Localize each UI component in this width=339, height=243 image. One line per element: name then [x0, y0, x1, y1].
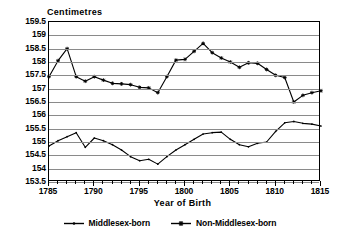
data-point-marker: [84, 146, 86, 148]
legend-item[interactable]: Middlesex-born: [63, 218, 150, 228]
gridline: [49, 142, 319, 143]
data-point-marker: [265, 68, 269, 72]
data-point-marker: [238, 65, 242, 69]
legend-item-label: Middlesex-born: [89, 218, 150, 228]
x-axis-tick-label: 1815: [311, 186, 330, 196]
x-axis-tick: [266, 181, 267, 184]
x-axis-tick: [130, 181, 131, 184]
legend-item[interactable]: Non-Middlesex-born: [170, 218, 276, 228]
data-point-marker: [48, 145, 50, 147]
data-point-marker: [156, 91, 160, 95]
x-axis-tick: [75, 181, 76, 184]
data-point-marker: [202, 133, 204, 135]
data-point-marker: [157, 163, 159, 165]
data-point-marker: [220, 131, 222, 133]
data-point-marker: [211, 132, 213, 134]
gridline: [49, 75, 319, 76]
x-axis-tick: [302, 181, 303, 184]
x-axis-tick-label: 1795: [129, 186, 148, 196]
data-point-marker: [310, 91, 314, 95]
data-point-marker: [139, 160, 141, 162]
data-point-marker: [193, 138, 195, 140]
x-axis-tick: [112, 181, 113, 184]
x-axis-tick-label: 1805: [220, 186, 239, 196]
data-point-marker: [239, 144, 241, 146]
data-point-marker: [148, 158, 150, 160]
gridline: [49, 89, 319, 90]
x-axis-tick-label: 1800: [175, 186, 194, 196]
data-point-marker: [302, 122, 304, 124]
x-axis-tick: [257, 181, 258, 184]
x-axis-tick: [148, 181, 149, 184]
x-axis-tick: [157, 181, 158, 184]
gridline: [49, 129, 319, 130]
data-point-marker: [111, 81, 115, 85]
legend-star-marker-icon: [170, 219, 192, 228]
data-point-marker: [275, 130, 277, 132]
gridline: [49, 155, 319, 156]
data-point-marker: [284, 122, 286, 124]
x-axis-tick: [211, 181, 212, 184]
data-point-marker: [248, 146, 250, 148]
x-axis-tick: [238, 181, 239, 184]
x-axis-tick: [202, 181, 203, 184]
gridline: [49, 62, 319, 63]
y-axis-tick-label: 153.5: [2, 176, 46, 186]
y-axis-tick-label: 157.5: [2, 69, 46, 79]
series-line: [49, 43, 321, 102]
data-point-marker: [66, 136, 68, 138]
x-axis-tick-labels: 1785179017951800180518101815: [0, 186, 339, 198]
x-axis-tick: [66, 181, 67, 184]
x-axis-tick: [175, 181, 176, 184]
data-point-marker: [75, 132, 77, 134]
data-point-marker: [121, 149, 123, 151]
data-point-marker: [83, 79, 87, 83]
data-point-marker: [112, 144, 114, 146]
x-axis-tick: [284, 181, 285, 184]
data-point-marker: [129, 83, 133, 87]
data-point-marker: [201, 41, 205, 45]
y-axis-tick-label: 158.5: [2, 43, 46, 53]
x-axis-tick: [166, 181, 167, 184]
y-axis-tick-label: 154: [2, 163, 46, 173]
data-point-marker: [175, 149, 177, 151]
x-axis-tick-label: 1790: [84, 186, 103, 196]
chart-legend: Middlesex-bornNon-Middlesex-born: [0, 218, 339, 228]
data-point-marker: [183, 57, 187, 61]
data-point-marker: [219, 56, 223, 60]
data-point-marker: [301, 93, 305, 97]
gridline: [49, 49, 319, 50]
x-axis-tick: [220, 181, 221, 184]
data-point-marker: [229, 138, 231, 140]
data-point-marker: [93, 137, 95, 139]
plot-area: [48, 21, 320, 181]
x-axis-tick: [311, 181, 312, 184]
x-axis-tick-label: 1785: [39, 186, 58, 196]
x-axis-tick: [248, 181, 249, 184]
data-point-marker: [319, 89, 323, 93]
data-point-marker: [192, 49, 196, 53]
x-axis-tick-label: 1810: [265, 186, 284, 196]
data-point-marker: [120, 82, 124, 86]
x-axis-title: Year of Birth: [0, 198, 339, 208]
y-axis-tick-label: 157: [2, 83, 46, 93]
x-axis-title-text: Year of Birth: [154, 198, 211, 208]
x-axis-tick: [193, 181, 194, 184]
x-axis-tick: [102, 181, 103, 184]
data-point-marker: [293, 121, 295, 123]
data-point-marker: [102, 78, 106, 82]
legend-line-marker-icon: [63, 219, 85, 228]
gridline: [49, 102, 319, 103]
gridline: [49, 35, 319, 36]
gridline: [49, 169, 319, 170]
x-axis-tick: [84, 181, 85, 184]
y-axis-tick-label: 156: [2, 109, 46, 119]
data-point-marker: [184, 144, 186, 146]
x-axis-tick: [293, 181, 294, 184]
y-axis-tick-label: 155: [2, 136, 46, 146]
x-axis-tick: [57, 181, 58, 184]
y-axis-tick-label: 159.5: [2, 16, 46, 26]
y-axis-tick-label: 154.5: [2, 149, 46, 159]
y-axis-tick-label: 156.5: [2, 96, 46, 106]
data-point-marker: [311, 123, 313, 125]
